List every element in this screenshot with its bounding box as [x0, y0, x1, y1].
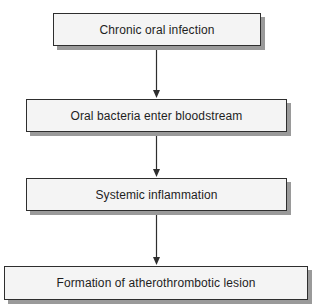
arrow-n1-to-n2: [153, 46, 160, 98]
arrow-n2-to-n3: [153, 132, 160, 177]
flow-node-chronic-oral-infection: Chronic oral infection: [53, 13, 261, 46]
flow-node-atherothrombotic-lesion: Formation of atherothrombotic lesion: [4, 266, 308, 300]
flow-arrows: [0, 0, 312, 307]
arrow-n3-to-n4: [153, 211, 160, 265]
flow-node-systemic-inflammation: Systemic inflammation: [26, 178, 287, 211]
flow-node-bacteria-enter-bloodstream: Oral bacteria enter bloodstream: [26, 99, 287, 132]
node-label: Formation of atherothrombotic lesion: [56, 276, 255, 290]
node-label: Chronic oral infection: [100, 23, 215, 37]
node-label: Systemic inflammation: [95, 188, 217, 202]
node-label: Oral bacteria enter bloodstream: [71, 109, 243, 123]
